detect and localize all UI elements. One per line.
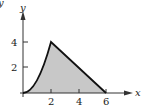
x-axis-label: x xyxy=(135,87,141,98)
y-axis-label: y xyxy=(19,2,26,13)
x-axis-arrow-icon xyxy=(124,91,133,96)
x-tick-label-6: 6 xyxy=(103,96,109,107)
y-tick-label-4: 4 xyxy=(11,37,17,48)
x-tick-label-4: 4 xyxy=(76,96,82,107)
x-tick-label-2: 2 xyxy=(48,96,54,107)
y-tick-label-2: 2 xyxy=(11,62,17,73)
shaded-region xyxy=(23,42,106,93)
corner-label: y xyxy=(0,0,4,8)
chart-figure: y x y 2 4 6 4 2 xyxy=(0,0,141,111)
